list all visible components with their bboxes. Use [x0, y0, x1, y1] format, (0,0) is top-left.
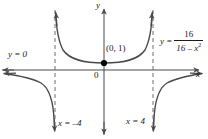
- graph-canvas: [0, 0, 208, 139]
- x-axis-label: x: [196, 70, 200, 79]
- function-denominator: 16 – x2: [174, 40, 203, 53]
- right-asymptote-label: x = 4: [126, 117, 145, 126]
- horizontal-asymptote-label: y = 0: [8, 50, 27, 59]
- curve-left-branch: [4, 74, 55, 132]
- function-label: y = 16 16 – x2: [160, 30, 203, 53]
- origin-label: 0: [94, 71, 99, 80]
- curve-right-branch: [153, 74, 202, 132]
- function-fraction: 16 16 – x2: [174, 30, 203, 53]
- graph-figure: y x 0 (0, 1) y = 0 x = –4 x = 4 y = 16 1…: [0, 0, 208, 139]
- left-asymptote-label: x = –4: [58, 119, 82, 128]
- axes: [2, 9, 199, 135]
- function-denominator-lead: 16 – x: [176, 43, 198, 53]
- point-label-0-1: (0, 1): [106, 44, 126, 53]
- function-lhs: y =: [160, 37, 172, 46]
- function-denominator-exponent: 2: [198, 42, 201, 48]
- function-numerator: 16: [182, 30, 195, 40]
- y-axis-label: y: [96, 1, 100, 10]
- point-marker-0-1: [101, 60, 107, 66]
